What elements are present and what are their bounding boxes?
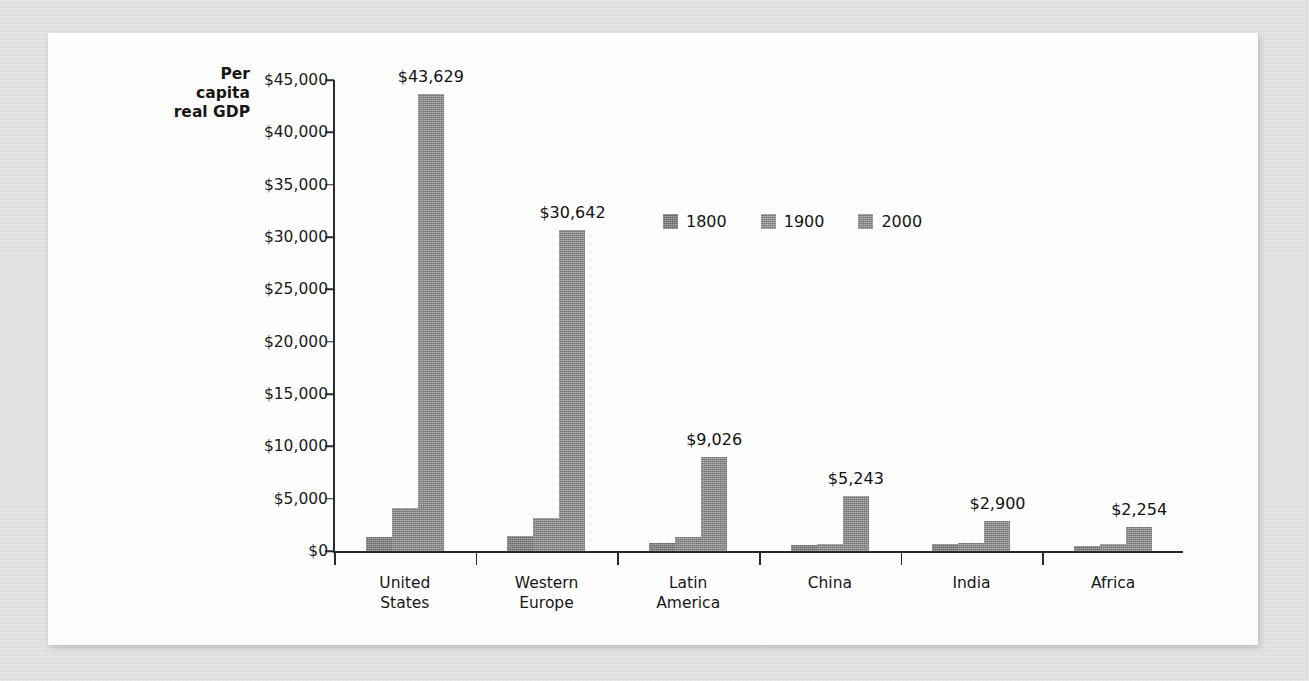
bar[interactable] bbox=[1074, 546, 1100, 551]
bar[interactable] bbox=[366, 537, 392, 551]
bar-value-label: $9,026 bbox=[686, 430, 742, 449]
x-axis-category-label: China bbox=[808, 574, 852, 594]
legend-item[interactable]: 1800 bbox=[663, 212, 727, 231]
y-axis-tick-label: $10,000 bbox=[264, 437, 328, 455]
bar[interactable] bbox=[533, 518, 559, 551]
bar-group-bars bbox=[476, 80, 618, 551]
bar-group-bars bbox=[901, 80, 1043, 551]
bar[interactable] bbox=[843, 496, 869, 551]
bar[interactable] bbox=[1126, 527, 1152, 551]
y-axis-tick-label: $45,000 bbox=[264, 71, 328, 89]
y-axis-tick-label: $35,000 bbox=[264, 176, 328, 194]
x-axis-category-label: India bbox=[952, 574, 990, 594]
x-axis-category-label: United States bbox=[379, 574, 430, 613]
legend-label: 1900 bbox=[784, 212, 825, 231]
y-axis-tick-label: $40,000 bbox=[264, 123, 328, 141]
bar-value-label: $2,254 bbox=[1111, 500, 1167, 519]
bar[interactable] bbox=[701, 457, 727, 551]
bar[interactable] bbox=[958, 543, 984, 551]
legend-label: 2000 bbox=[881, 212, 922, 231]
legend-swatch-icon bbox=[663, 214, 678, 229]
x-axis-tick-mark bbox=[759, 552, 761, 565]
bar[interactable] bbox=[675, 537, 701, 551]
bar-value-label: $2,900 bbox=[970, 494, 1026, 513]
x-axis-tick-mark bbox=[1042, 552, 1044, 565]
y-axis-tick-label: $15,000 bbox=[264, 385, 328, 403]
x-axis-category-label: Western Europe bbox=[515, 574, 579, 613]
bar[interactable] bbox=[817, 544, 843, 551]
x-axis-tick-mark bbox=[901, 552, 903, 565]
y-axis-tick-label: $20,000 bbox=[264, 333, 328, 351]
bar[interactable] bbox=[418, 94, 444, 551]
y-axis-tick-label: $30,000 bbox=[264, 228, 328, 246]
chart-legend: 180019002000 bbox=[663, 212, 922, 231]
bar-value-label: $43,629 bbox=[398, 67, 464, 86]
bar-group bbox=[476, 80, 618, 551]
bar[interactable] bbox=[791, 545, 817, 551]
bar-group-bars bbox=[617, 80, 759, 551]
legend-item[interactable]: 1900 bbox=[761, 212, 825, 231]
bar-group bbox=[901, 80, 1043, 551]
bar-value-label: $30,642 bbox=[539, 203, 605, 222]
plot-area: $43,629$30,642$9,026$5,243$2,900$2,254 bbox=[334, 80, 1184, 551]
bar[interactable] bbox=[1100, 544, 1126, 551]
x-axis-tick-mark bbox=[334, 552, 336, 565]
bar[interactable] bbox=[649, 543, 675, 551]
bar-group-bars bbox=[334, 80, 476, 551]
bar-group bbox=[1042, 80, 1184, 551]
legend-swatch-icon bbox=[761, 214, 776, 229]
x-axis-category-label: Africa bbox=[1091, 574, 1135, 594]
bar-value-label: $5,243 bbox=[828, 469, 884, 488]
legend-item[interactable]: 2000 bbox=[858, 212, 922, 231]
bar-group bbox=[617, 80, 759, 551]
bar-chart: Per capita real GDP $0$5,000$10,000$15,0… bbox=[48, 33, 1258, 645]
x-axis-line bbox=[333, 551, 1183, 553]
bar[interactable] bbox=[392, 508, 418, 551]
bar[interactable] bbox=[984, 521, 1010, 551]
legend-swatch-icon bbox=[858, 214, 873, 229]
x-axis-tick-mark bbox=[617, 552, 619, 565]
bar-group bbox=[334, 80, 476, 551]
bar[interactable] bbox=[932, 544, 958, 551]
y-axis-title: Per capita real GDP bbox=[144, 65, 250, 122]
y-axis-tick-label: $25,000 bbox=[264, 280, 328, 298]
y-axis-tick-label: $5,000 bbox=[274, 490, 328, 508]
bar[interactable] bbox=[507, 536, 533, 551]
x-axis-category-label: Latin America bbox=[656, 574, 720, 613]
figure-card: Per capita real GDP $0$5,000$10,000$15,0… bbox=[48, 33, 1258, 645]
legend-label: 1800 bbox=[686, 212, 727, 231]
x-axis-tick-mark bbox=[476, 552, 478, 565]
bar-group-bars bbox=[1042, 80, 1184, 551]
bar[interactable] bbox=[559, 230, 585, 551]
